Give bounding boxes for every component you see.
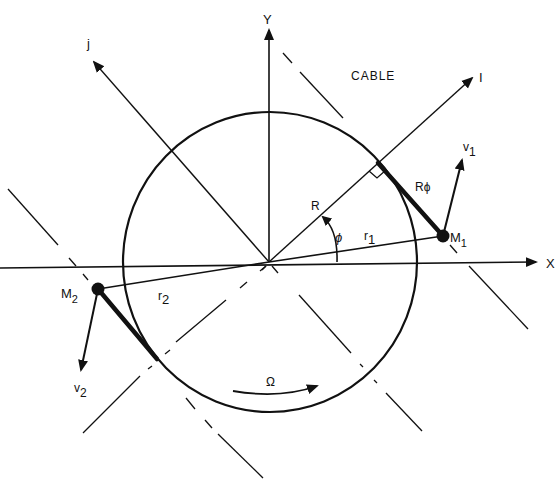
m2-symbol: M xyxy=(61,286,72,301)
j-axis xyxy=(94,62,269,262)
v1-label: v1 xyxy=(463,140,476,159)
r2-subscript: 2 xyxy=(162,292,169,307)
cable-segment-1 xyxy=(378,163,443,236)
m1-subscript: 1 xyxy=(461,237,467,249)
arc-length-label: Rϕ xyxy=(415,180,431,194)
v2-subscript: 2 xyxy=(80,386,87,400)
omega-label: Ω xyxy=(266,375,275,389)
r2-label: r2 xyxy=(158,289,169,307)
velocity-v2-arrow xyxy=(81,289,98,370)
v1-subscript: 1 xyxy=(469,145,476,159)
v2-label: v2 xyxy=(74,381,87,400)
i-axis-label: I xyxy=(479,70,483,85)
j-axis-label: j xyxy=(86,36,90,51)
omega-rotation-arrow xyxy=(233,386,317,394)
cable-label: CABLE xyxy=(351,69,395,83)
y-axis-label: Y xyxy=(263,12,272,27)
r1-label: r1 xyxy=(364,229,375,247)
m1-label: M1 xyxy=(450,230,467,249)
m1-symbol: M xyxy=(450,230,461,245)
r1-subscript: 1 xyxy=(368,232,375,247)
m2-subscript: 2 xyxy=(72,293,78,305)
phi-label: ϕ xyxy=(335,230,342,245)
satellite-cable-diagram: Y j I X CABLE R ϕ Rϕ r1 r2 M1 M2 v1 v2 Ω xyxy=(0,0,559,484)
x-axis-label: X xyxy=(546,256,555,271)
velocity-v1-arrow xyxy=(443,160,462,236)
radius-label: R xyxy=(311,199,320,213)
m2-label: M2 xyxy=(61,286,78,305)
